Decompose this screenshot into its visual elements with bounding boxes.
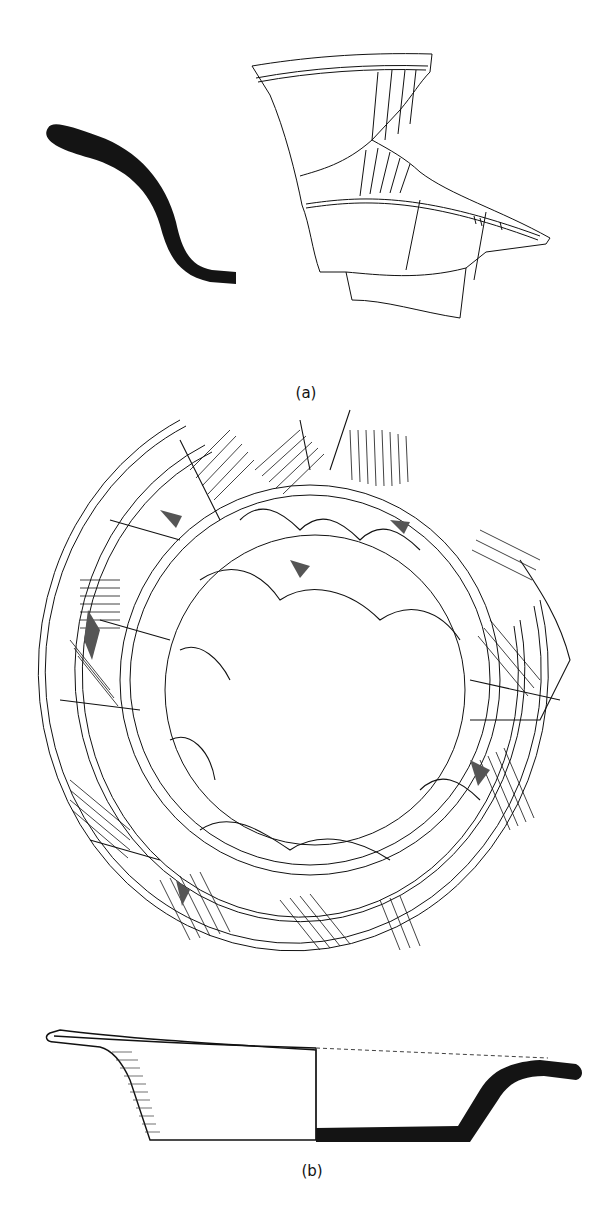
panel-a-label: (a) xyxy=(296,384,317,402)
bowl-plan-view xyxy=(38,410,570,951)
panel-b-label: (b) xyxy=(301,1162,322,1180)
decorated-sherd-fragment xyxy=(252,54,550,318)
rim-profile-section xyxy=(46,124,236,284)
outer-rim xyxy=(38,420,548,951)
figure-canvas xyxy=(0,0,612,1217)
bowl-profile-section xyxy=(47,1030,582,1142)
profile-section-fill xyxy=(316,1060,582,1142)
